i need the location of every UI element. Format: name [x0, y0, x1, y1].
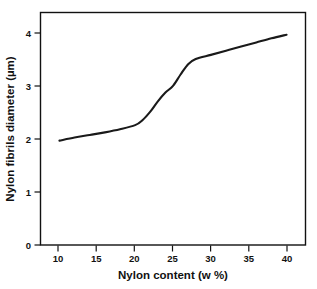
x-tick-label: 10 — [53, 253, 64, 264]
x-tick-label: 25 — [167, 253, 178, 264]
line-chart: 0 1 2 3 4 10 15 20 25 30 35 40 Nylon con… — [0, 0, 317, 289]
x-tick-label: 20 — [129, 253, 140, 264]
y-tick-label: 4 — [26, 28, 32, 39]
x-tick-label: 15 — [91, 253, 102, 264]
x-tick-label: 35 — [244, 253, 255, 264]
y-tick-label: 3 — [26, 81, 31, 92]
x-tick-label: 30 — [205, 253, 216, 264]
y-tick-label: 0 — [26, 240, 31, 251]
y-tick-label: 1 — [26, 187, 32, 198]
caption-fragment — [3, 279, 303, 287]
figure-container: 0 1 2 3 4 10 15 20 25 30 35 40 Nylon con… — [0, 0, 317, 289]
y-axis-title: Nylon fibrils diameter (µm) — [4, 56, 16, 201]
x-tick-label: 40 — [282, 253, 293, 264]
y-tick-label: 2 — [26, 134, 31, 145]
